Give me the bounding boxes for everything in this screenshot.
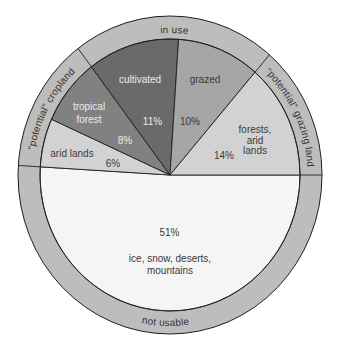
slice-value-tropical-forest: 8% bbox=[118, 135, 133, 146]
slice-label-cultivated: cultivated bbox=[119, 74, 161, 85]
ring-label-in-use: in use bbox=[160, 24, 190, 36]
slice-label-tropical-forest-line1: tropical bbox=[73, 101, 105, 112]
slice-value-ice: 51% bbox=[159, 227, 179, 238]
slice-label-ice-line2: mountains bbox=[147, 265, 193, 276]
slice-value-arid-lands: 6% bbox=[106, 158, 121, 169]
slice-label-arid-lands: arid lands bbox=[50, 148, 93, 159]
slice-label-forests-line1: forests, bbox=[239, 124, 272, 135]
slice-value-cultivated: 11% bbox=[143, 116, 162, 127]
slice-label-forests-line2: arid bbox=[247, 135, 264, 146]
slice-label-grazed: grazed bbox=[190, 74, 221, 85]
pie-chart: not usable “potential” cropland in use “… bbox=[0, 0, 337, 352]
slice-value-grazed: 10% bbox=[180, 116, 200, 127]
slice-value-forests: 14% bbox=[214, 150, 234, 161]
slice-label-forests-line3: lands bbox=[243, 145, 267, 156]
slice-label-tropical-forest-line2: forest bbox=[76, 114, 101, 125]
slice-label-ice-line1: ice, snow, deserts, bbox=[129, 253, 211, 264]
